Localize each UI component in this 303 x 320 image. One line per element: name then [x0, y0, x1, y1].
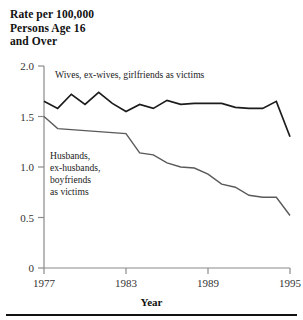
x-axis-tick-label: 1995	[279, 277, 302, 289]
line-chart-plot: 00.51.01.52.0 1977198319891995 Wives, ex…	[0, 0, 303, 320]
y-axis-tick-label: 1.5	[20, 111, 34, 123]
x-axis-tick-labels: 1977198319891995	[33, 277, 302, 289]
series-label-husbands-line-1: Husbands,	[50, 150, 90, 161]
chart-figure: Rate per 100,000 Persons Age 16 and Over…	[0, 0, 303, 320]
y-axis-tick-label: 0.5	[20, 212, 34, 224]
x-axis-tick-label: 1983	[115, 277, 138, 289]
x-axis-ticks	[44, 268, 290, 274]
series-label-wives: Wives, ex-wives, girlfriends as victims	[55, 69, 205, 80]
y-axis-ticks	[38, 66, 44, 268]
x-axis-tick-label: 1989	[197, 277, 220, 289]
series-label-husbands-line-2: ex-husbands,	[50, 162, 100, 173]
bottom-divider	[6, 314, 297, 316]
y-axis-tick-label: 2.0	[20, 60, 34, 72]
series-label-husbands: Husbands, ex-husbands, boyfriends as vic…	[50, 150, 100, 197]
y-axis-tick-labels: 00.51.01.52.0	[20, 60, 34, 274]
x-axis-tick-label: 1977	[33, 277, 56, 289]
y-axis-tick-label: 0	[29, 262, 35, 274]
y-axis-tick-label: 1.0	[20, 161, 34, 173]
series-label-husbands-line-4: as victims	[50, 186, 89, 197]
series-label-husbands-line-3: boyfriends	[50, 174, 91, 185]
x-axis-title: Year	[0, 296, 303, 308]
